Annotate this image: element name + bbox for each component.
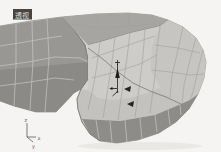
side-panel-lower-shade [0,62,88,112]
viewport-label-text[interactable]: 透视 [15,11,30,20]
axis-y-line [27,137,33,142]
axis-x-label: x [38,135,41,141]
car-mesh[interactable] [0,13,206,143]
viewport[interactable]: z x y 透视 [0,0,221,152]
axis-y-label: y [32,143,35,150]
viewport-canvas[interactable]: z x y 透视 [0,0,221,152]
world-axis-tripod: z x y [25,117,41,150]
axis-z-label: z [25,117,28,123]
ground-shadow [78,142,202,150]
viewport-label[interactable]: 透视 [13,9,32,20]
